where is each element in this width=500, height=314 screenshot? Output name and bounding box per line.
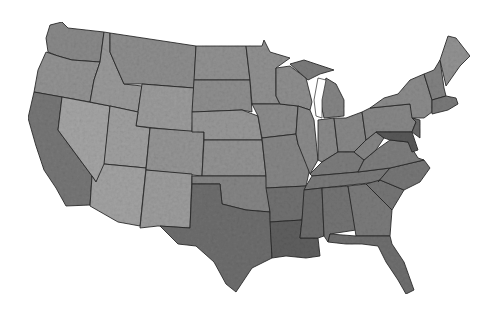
region-florida bbox=[328, 234, 414, 294]
region-massachusetts-ct-ri bbox=[432, 96, 458, 114]
region-mississippi bbox=[300, 188, 324, 238]
land-regions bbox=[28, 22, 470, 294]
region-wyoming bbox=[136, 84, 194, 132]
region-colorado bbox=[146, 128, 204, 176]
region-kansas bbox=[202, 140, 266, 176]
region-maine bbox=[440, 36, 470, 86]
region-south-dakota bbox=[192, 80, 252, 112]
us-county-choropleth-map bbox=[0, 0, 500, 314]
region-north-dakota bbox=[194, 46, 250, 80]
region-new-mexico bbox=[140, 170, 192, 228]
region-montana bbox=[110, 33, 196, 88]
region-arkansas bbox=[266, 186, 306, 222]
